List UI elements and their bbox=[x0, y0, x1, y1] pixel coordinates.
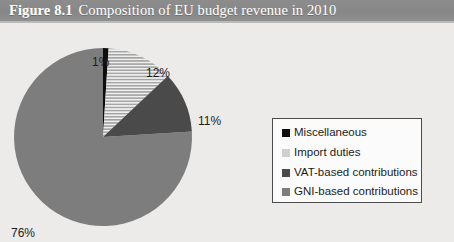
figure-number: Figure 8.1 bbox=[9, 2, 73, 18]
legend-swatch-icon bbox=[282, 188, 290, 196]
legend-item-miscellaneous: Miscellaneous bbox=[282, 126, 367, 139]
legend-label: Miscellaneous bbox=[294, 126, 367, 139]
data-label-miscellaneous: 1% bbox=[92, 56, 109, 69]
data-label-import-duties: 12% bbox=[146, 67, 170, 80]
legend-item-gni-based: GNI-based contributions bbox=[282, 185, 418, 198]
figure-caption: Composition of EU budget revenue in 2010 bbox=[79, 2, 337, 18]
legend-label: VAT-based contributions bbox=[294, 166, 418, 179]
legend-item-vat-based: VAT-based contributions bbox=[282, 166, 418, 179]
chart-legend: Miscellaneous Import duties VAT-based co… bbox=[272, 118, 422, 203]
data-label-vat-based: 11% bbox=[198, 115, 221, 128]
legend-swatch-icon bbox=[282, 129, 290, 137]
legend-label: GNI-based contributions bbox=[294, 185, 418, 198]
data-label-gni-based: 76% bbox=[11, 227, 35, 240]
legend-swatch-icon bbox=[282, 149, 290, 157]
chart-plot-area: 1% 12% 11% 76% Miscellaneous Import duti… bbox=[0, 23, 454, 242]
figure-title-bar: Figure 8.1Composition of EU budget reven… bbox=[0, 0, 454, 21]
legend-swatch-icon bbox=[282, 169, 290, 177]
legend-label: Import duties bbox=[294, 146, 360, 159]
figure-container: Figure 8.1Composition of EU budget reven… bbox=[0, 0, 454, 242]
figure-title: Figure 8.1Composition of EU budget reven… bbox=[9, 2, 336, 19]
legend-item-import-duties: Import duties bbox=[282, 146, 360, 159]
